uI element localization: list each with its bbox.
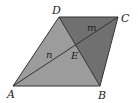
vertex-label-e: E: [70, 50, 79, 61]
vertex-label-c: C: [121, 12, 130, 25]
vertex-label-a: A: [6, 88, 15, 101]
vertex-label-d: D: [51, 4, 61, 17]
region-label-n: n: [46, 49, 52, 60]
vertex-label-b: B: [97, 89, 106, 102]
region-label-m: m: [87, 22, 96, 33]
parallelogram-diagram: A B C D E m n: [0, 0, 138, 103]
